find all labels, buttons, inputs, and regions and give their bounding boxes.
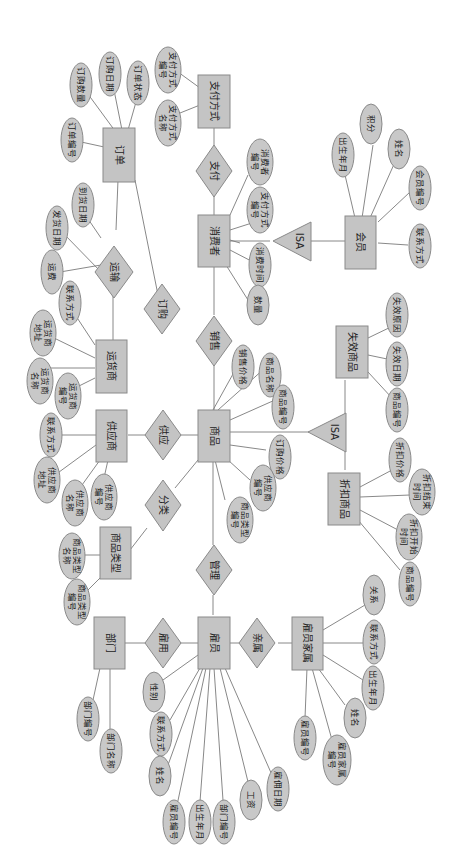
relationship-ship[interactable]: 运输 [95, 246, 133, 298]
svg-text:亲属: 亲属 [252, 633, 264, 653]
attr-discount-price[interactable]: 折扣价格 [389, 438, 411, 482]
svg-text:雇佣日期: 雇佣日期 [273, 771, 283, 807]
attr-carrier-id[interactable]: 运货商编号 [55, 373, 81, 419]
attr-expire-reason[interactable]: 失效原因 [386, 293, 408, 337]
entity-carrier[interactable]: 运货商 [96, 340, 127, 393]
isa-consumer-member[interactable]: ISA [273, 222, 311, 261]
attr-carrier-contact[interactable]: 联系方式 [59, 281, 81, 325]
svg-text:运货商: 运货商 [106, 351, 118, 381]
attr-employee-salary[interactable]: 工资 [240, 780, 262, 820]
attr-employee-name[interactable]: 姓名 [149, 756, 171, 796]
attr-member-birth[interactable]: 出生年月 [332, 133, 354, 177]
entity-payment[interactable]: 支付方式 [198, 75, 230, 128]
attr-category-name[interactable]: 商品类型名称 [59, 533, 85, 579]
svg-text:订购日期: 订购日期 [105, 56, 115, 92]
entity-employee[interactable]: 雇员 [198, 617, 230, 669]
svg-text:雇员家属: 雇员家属 [302, 623, 314, 663]
entity-category[interactable]: 商品类型 [100, 527, 131, 579]
attr-family-id[interactable]: 雇员家属编号 [323, 735, 351, 785]
entity-member[interactable]: 会员 [345, 216, 376, 269]
relationship-dependent[interactable]: 亲属 [239, 618, 275, 668]
attr-order-status[interactable]: 订单状态 [127, 61, 149, 105]
svg-text:关系: 关系 [369, 586, 379, 604]
er-diagram: 订单 支付方式 运货商 消费者 会员 供应商 商品 商品类型 [0, 0, 461, 865]
attr-product-category-id[interactable]: 商品类型编号 [227, 497, 253, 543]
attr-member-points[interactable]: 积分 [360, 104, 382, 144]
attr-employee-dept-id[interactable]: 部门编号 [213, 800, 235, 844]
attr-order-qty[interactable]: 订购数量 [70, 63, 92, 107]
attr-category-id[interactable]: 商品类型编号 [64, 579, 90, 625]
svg-text:消费时间: 消费时间 [255, 247, 265, 283]
svg-text:数量: 数量 [253, 296, 263, 314]
attr-supplier-address[interactable]: 供应商地址 [34, 457, 60, 503]
attr-family-relation[interactable]: 关系 [363, 575, 385, 615]
attr-family-birth[interactable]: 出生年月 [362, 666, 384, 710]
attr-member-id[interactable]: 会员编号 [409, 166, 431, 210]
attr-consume-time[interactable]: 消费时间 [249, 243, 271, 287]
attr-product-id[interactable]: 商品编号 [272, 385, 294, 429]
entity-product[interactable]: 商品 [198, 410, 230, 462]
attr-employee-birth[interactable]: 出生年月 [189, 800, 211, 844]
attr-discount-end[interactable]: 折扣结束时间 [409, 469, 435, 515]
entity-consumer[interactable]: 消费者 [198, 215, 230, 267]
attr-expired-product-id[interactable]: 商品编号 [386, 388, 408, 432]
svg-text:订购价格: 订购价格 [275, 439, 285, 475]
svg-text:出生年月: 出生年月 [195, 804, 205, 840]
svg-text:商品编号: 商品编号 [405, 566, 415, 602]
entity-order[interactable]: 订单 [103, 128, 135, 182]
svg-text:姓名: 姓名 [394, 140, 404, 158]
relationship-manage[interactable]: 管理 [196, 545, 232, 595]
attr-order-id[interactable]: 订单编号 [61, 118, 83, 162]
attr-supplier-contact[interactable]: 联系方式 [40, 413, 62, 457]
relationship-sell[interactable]: 销售 [196, 316, 232, 366]
svg-text:部门编号: 部门编号 [83, 701, 93, 737]
attr-payment-id[interactable]: 支付方式编号 [155, 47, 181, 93]
attr-dept-id[interactable]: 部门编号 [77, 697, 99, 741]
relationship-supply[interactable]: 供应 [145, 410, 181, 460]
svg-text:联系方式: 联系方式 [46, 417, 56, 453]
attr-freight[interactable]: 运费 [41, 250, 63, 294]
relationship-purchase[interactable]: 订购 [144, 284, 180, 334]
attr-discount-start[interactable]: 折扣开始时间 [396, 514, 422, 560]
attr-family-name[interactable]: 姓名 [344, 698, 366, 738]
attr-product-supplier-id[interactable]: 供应商编号 [250, 465, 276, 511]
attr-discount-product-id[interactable]: 商品编号 [399, 562, 421, 606]
relationship-hire[interactable]: 雇用 [145, 618, 181, 668]
entity-supplier[interactable]: 供应商 [96, 410, 127, 462]
svg-text:供应商: 供应商 [106, 421, 118, 451]
attr-order-date[interactable]: 订购日期 [99, 52, 121, 96]
attr-employee-contact[interactable]: 联系方式 [150, 712, 172, 756]
attr-sale-price[interactable]: 销售价格 [232, 345, 254, 389]
attr-supplier-name[interactable]: 供应商名称 [62, 480, 88, 526]
entity-expired[interactable]: 失效商品 [336, 326, 368, 378]
isa-product-subtypes[interactable]: ISA [308, 413, 346, 452]
attr-employee-id[interactable]: 雇员编号 [163, 800, 185, 844]
attr-consumer-id[interactable]: 消费者编号 [247, 139, 273, 185]
entity-dept[interactable]: 部门 [94, 617, 125, 669]
svg-text:ISA: ISA [294, 233, 305, 249]
attr-family-employee-id[interactable]: 雇员编号 [294, 716, 316, 760]
entity-family[interactable]: 雇员家属 [292, 617, 323, 670]
attr-carrier-name[interactable]: 运货商名称 [27, 358, 53, 404]
attr-employee-hire-date[interactable]: 雇佣日期 [267, 767, 289, 811]
attr-member-contact[interactable]: 联系方式 [409, 224, 431, 268]
attr-dept-name[interactable]: 部门名称 [100, 729, 122, 773]
svg-text:姓名: 姓名 [155, 767, 165, 785]
relationship-pay[interactable]: 支付 [196, 145, 232, 197]
attr-expire-date[interactable]: 失效日期 [386, 342, 408, 386]
attr-consumer-payment-id[interactable]: 支付方式编号 [247, 187, 273, 233]
attr-family-contact[interactable]: 联系方式 [363, 620, 385, 664]
attr-payment-name[interactable]: 支付方式名称 [155, 100, 181, 146]
attr-arrival-date[interactable]: 到货日期 [72, 183, 94, 227]
attr-employee-gender[interactable]: 性别 [143, 672, 165, 712]
attr-member-name[interactable]: 姓名 [388, 129, 410, 169]
attr-carrier-address[interactable]: 运货商地址 [30, 310, 56, 356]
attr-supplier-id[interactable]: 供应商编号 [91, 474, 117, 520]
svg-text:订单编号: 订单编号 [67, 122, 77, 158]
svg-text:雇员: 雇员 [209, 633, 221, 653]
svg-text:订购数量: 订购数量 [76, 67, 86, 103]
attr-consumer-qty[interactable]: 数量 [247, 285, 269, 325]
entity-discount[interactable]: 折扣商品 [328, 473, 360, 525]
svg-text:失效日期: 失效日期 [392, 346, 402, 382]
attr-ship-date[interactable]: 发货日期 [46, 206, 68, 250]
